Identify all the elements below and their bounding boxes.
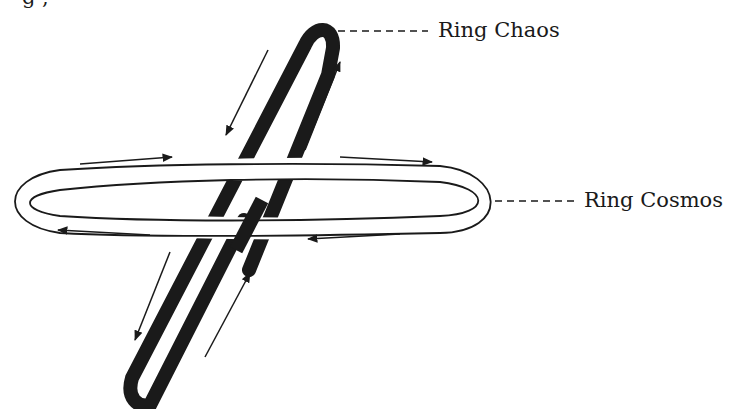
ring-chaos-label: Ring Chaos — [438, 20, 560, 41]
ring-cosmos-label: Ring Cosmos — [584, 190, 723, 211]
